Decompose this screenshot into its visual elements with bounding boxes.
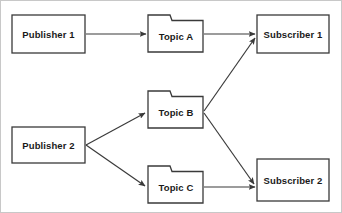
node-topic-c[interactable]: Topic C bbox=[148, 166, 203, 203]
node-subscriber-1[interactable]: Subscriber 1 bbox=[257, 15, 329, 53]
node-topic-a[interactable]: Topic A bbox=[148, 15, 203, 52]
node-subscriber-2[interactable]: Subscriber 2 bbox=[257, 159, 329, 201]
node-publisher-2[interactable]: Publisher 2 bbox=[12, 127, 85, 163]
diagram-canvas: Publisher 1 Publisher 2 Topic A Topic B … bbox=[0, 0, 342, 213]
edge-publisher2-to-topic-b bbox=[86, 113, 145, 145]
edge-topic-b-to-subscriber-1 bbox=[204, 38, 255, 111]
subscriber-1-label: Subscriber 1 bbox=[264, 29, 323, 40]
node-publisher-1[interactable]: Publisher 1 bbox=[12, 15, 85, 53]
node-topic-b[interactable]: Topic B bbox=[148, 91, 203, 128]
publisher-1-label: Publisher 1 bbox=[22, 29, 75, 40]
topic-c-label: Topic C bbox=[159, 182, 194, 193]
topic-b-label: Topic B bbox=[159, 107, 194, 118]
publisher-2-label: Publisher 2 bbox=[22, 140, 74, 151]
edge-topic-b-to-subscriber-2 bbox=[204, 113, 254, 184]
edge-publisher2-to-topic-c bbox=[86, 145, 145, 186]
subscriber-2-label: Subscriber 2 bbox=[264, 175, 323, 186]
pubsub-diagram: Publisher 1 Publisher 2 Topic A Topic B … bbox=[1, 1, 342, 213]
topic-a-label: Topic A bbox=[159, 31, 194, 42]
